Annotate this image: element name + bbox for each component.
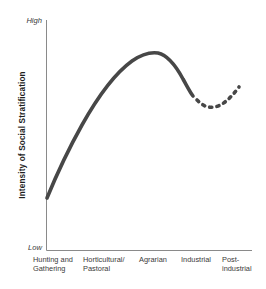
y-axis-low-label: Low: [28, 243, 42, 252]
y-axis-title: Intensity of Social Stratification: [18, 71, 27, 198]
social-stratification-chart: High Low Intensity of Social Stratificat…: [0, 0, 266, 289]
x-tick-label-horticultural-line1: Horticultural/: [83, 255, 125, 264]
x-tick-label-hunting-line1: Hunting and: [33, 255, 73, 264]
x-tick-label-postindustrial-line1: Post-: [222, 255, 240, 264]
x-tick-label-horticultural-line2: Pastoral: [83, 264, 110, 273]
y-axis-high-label: High: [26, 16, 42, 25]
x-tick-label-hunting-line2: Gathering: [33, 264, 65, 273]
x-tick-label-agrarian-line1: Agrarian: [139, 255, 167, 264]
x-tick-label-postindustrial-line2: industrial: [222, 264, 252, 273]
x-tick-label-industrial-line1: Industrial: [181, 255, 211, 264]
